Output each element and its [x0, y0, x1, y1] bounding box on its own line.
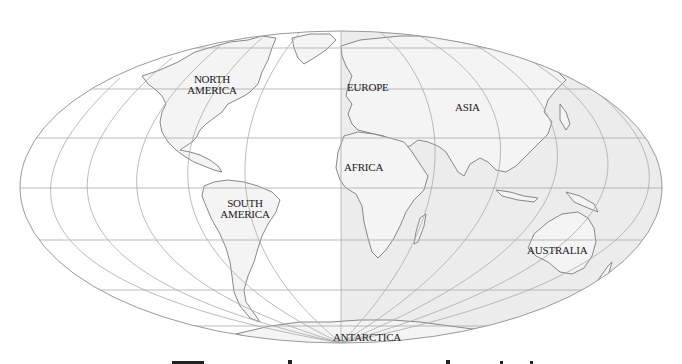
label-australia: AUSTRALIA [527, 245, 588, 256]
cropped-caption [0, 350, 682, 364]
label-asia: ASIA [455, 102, 480, 113]
caption-fragment [288, 360, 292, 364]
label-south-america: SOUTH AMERICA [208, 198, 282, 220]
label-north-america: NORTH AMERICA [176, 74, 248, 96]
label-north-america-line2: AMERICA [176, 85, 248, 96]
label-antarctica: ANTARCTICA [333, 332, 401, 343]
world-map [0, 0, 682, 364]
label-europe: EUROPE [347, 82, 389, 93]
caption-fragment [446, 360, 450, 364]
label-africa: AFRICA [344, 162, 383, 173]
label-south-america-line2: AMERICA [208, 209, 282, 220]
